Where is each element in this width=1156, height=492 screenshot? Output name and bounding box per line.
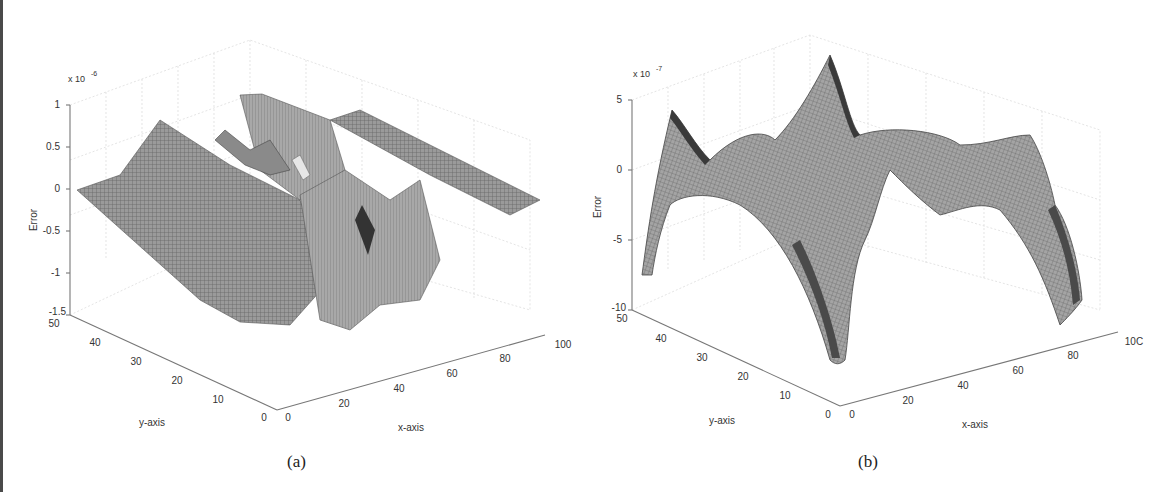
z-exponent: -7 [656, 65, 662, 72]
y-tick: 20 [171, 375, 183, 386]
plot-a-y-tick-labels: 50 40 30 20 10 0 [48, 318, 267, 423]
z-exponent: -6 [91, 70, 97, 77]
y-tick: 20 [737, 371, 749, 382]
plot-b-canvas: 5 0 -5 -10 x 10 -7 Error 50 40 30 20 10 … [560, 0, 1156, 492]
y-tick: 0 [825, 409, 831, 420]
x-tick: 60 [446, 368, 458, 379]
y-tick: 30 [130, 356, 142, 367]
y-tick: 10 [779, 390, 791, 401]
plot-b-x-tick-labels: 0 20 40 60 80 10C [849, 336, 1143, 420]
x-axis-title: x-axis [962, 419, 988, 430]
y-tick: 0 [261, 412, 267, 423]
x-tick: 80 [1067, 350, 1079, 361]
z-axis-title: Error [592, 195, 603, 218]
x-axis-title: x-axis [398, 422, 424, 433]
plot-b-y-tick-labels: 50 40 30 20 10 0 [616, 313, 831, 420]
z-tick: 0 [616, 164, 622, 175]
x-tick: 40 [957, 380, 969, 391]
y-tick: 10 [212, 394, 224, 405]
x-tick: 20 [902, 395, 914, 406]
y-tick: 40 [655, 333, 667, 344]
y-tick: 30 [696, 352, 708, 363]
y-tick: 50 [616, 313, 628, 324]
y-axis-title: y-axis [139, 417, 165, 428]
plot-a-canvas: 1 0.5 0 -0.5 -1 -1.5 x 10 -6 Error 50 40… [0, 0, 578, 492]
x-tick: 0 [285, 412, 291, 423]
z-tick: -1.5 [49, 306, 67, 317]
plot-a-x-tick-labels: 0 20 40 60 80 100 [285, 339, 572, 423]
plot-a-z-tick-labels: 1 0.5 0 -0.5 -1 -1.5 [43, 99, 67, 317]
plot-b-surface [642, 55, 1082, 364]
panel-caption-a: (a) [287, 452, 306, 472]
z-tick: 0 [54, 183, 60, 194]
z-tick: -1 [51, 267, 60, 278]
z-tick: 5 [616, 94, 622, 105]
x-tick: 60 [1012, 365, 1024, 376]
x-tick: 10C [1125, 336, 1143, 347]
y-tick: 50 [48, 318, 60, 329]
x-tick: 40 [393, 383, 405, 394]
plot-b-z-tick-labels: 5 0 -5 -10 [612, 94, 627, 313]
surface-plot-a: 1 0.5 0 -0.5 -1 -1.5 x 10 -6 Error 50 40… [0, 0, 578, 492]
x-tick: 20 [338, 398, 350, 409]
z-tick: -0.5 [43, 225, 61, 236]
x-tick: 80 [499, 353, 511, 364]
z-tick: 1 [54, 99, 60, 110]
z-multiplier: x 10 [68, 74, 85, 84]
z-tick: -10 [612, 302, 627, 313]
z-tick: 0.5 [46, 141, 60, 152]
y-tick: 40 [89, 337, 101, 348]
plot-a-surface [77, 94, 540, 330]
z-multiplier: x 10 [633, 69, 650, 79]
surface-plot-b: 5 0 -5 -10 x 10 -7 Error 50 40 30 20 10 … [560, 0, 1156, 492]
z-tick: -5 [613, 234, 622, 245]
x-tick: 0 [849, 409, 855, 420]
panel-caption-b: (b) [858, 452, 878, 472]
z-axis-title: Error [28, 208, 39, 231]
y-axis-title: y-axis [709, 415, 735, 426]
